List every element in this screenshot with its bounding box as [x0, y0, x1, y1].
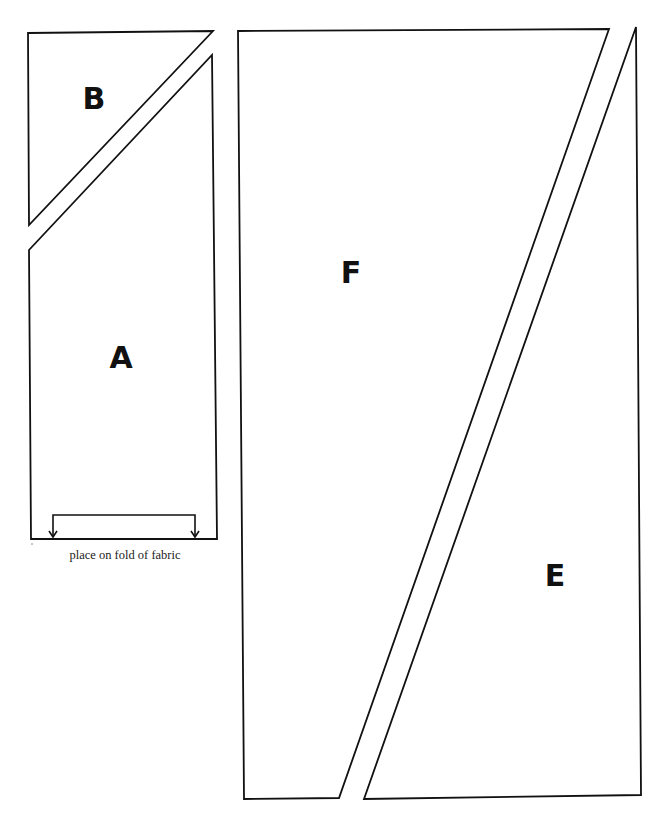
pattern-diagram: B A place on fold of fabric F E — [0, 0, 665, 826]
piece-e-label: E — [545, 558, 566, 593]
piece-a-label: A — [109, 340, 133, 375]
fold-instruction-text: place on fold of fabric — [69, 548, 181, 562]
print-speck — [31, 543, 33, 545]
piece-b-label: B — [83, 81, 106, 116]
piece-f-label: F — [341, 255, 362, 290]
